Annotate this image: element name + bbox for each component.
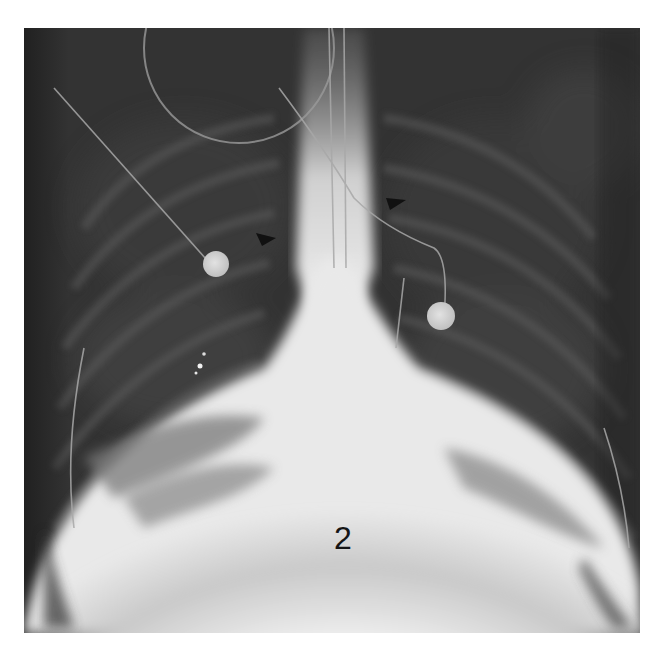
xray-image: [24, 28, 640, 633]
ecg-electrode-right: [203, 251, 229, 277]
chest-xray-figure: 2: [24, 28, 640, 633]
panel-label: 2: [334, 522, 352, 554]
ecg-electrode-left: [427, 302, 455, 330]
